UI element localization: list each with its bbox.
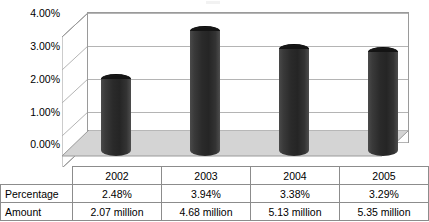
gridline-1: [88, 112, 408, 113]
table-header-2004: 2004: [251, 167, 340, 185]
bar-body-2004: [279, 49, 309, 156]
table-cell-amount-2004: 5.13 million: [251, 203, 340, 221]
gridline-3: [88, 46, 408, 47]
bar-2005: [368, 47, 398, 156]
bar-2004: [279, 44, 309, 156]
plot-back-wall: [87, 12, 409, 143]
table-cell-amount-2002: 2.07 million: [73, 203, 162, 221]
y-tick-label-1: 1.00%: [2, 107, 60, 118]
y-tick-label-3: 3.00%: [2, 41, 60, 52]
table-row: Percentage 2.48% 3.94% 3.38% 3.29%: [1, 185, 429, 203]
table-cell-amount-2003: 4.68 million: [162, 203, 251, 221]
bar-body-2005: [368, 52, 398, 156]
bar-2002: [101, 74, 131, 156]
y-axis: 4.00% 3.00% 2.00% 1.00% 0.00%: [0, 0, 60, 170]
table-cell-percentage-2002: 2.48%: [73, 185, 162, 203]
table-cell-amount-2005: 5.35 million: [340, 203, 429, 221]
y-tick-label-2: 2.00%: [2, 74, 60, 85]
table-row-label-percentage: Percentage: [1, 185, 73, 203]
chart-figure: 4.00% 3.00% 2.00% 1.00% 0.00%: [0, 0, 429, 222]
table-header-2003: 2003: [162, 167, 251, 185]
table-cell-percentage-2004: 3.38%: [251, 185, 340, 203]
table-corner-cell: [1, 167, 73, 185]
bar-2003: [190, 26, 220, 156]
table-row: Amount 2.07 million 4.68 million 5.13 mi…: [1, 203, 429, 221]
table-row-header: 2002 2003 2004 2005: [1, 167, 429, 185]
table-header-2005: 2005: [340, 167, 429, 185]
gridline-2: [88, 79, 408, 80]
y-tick-label-4: 4.00%: [2, 8, 60, 19]
data-table: 2002 2003 2004 2005 Percentage 2.48% 3.9…: [0, 166, 429, 221]
y-tick-label-0: 0.00%: [2, 139, 60, 150]
table-cell-percentage-2003: 3.94%: [162, 185, 251, 203]
table-header-2002: 2002: [73, 167, 162, 185]
table-cell-percentage-2005: 3.29%: [340, 185, 429, 203]
table-row-label-amount: Amount: [1, 203, 73, 221]
bar-chart-3d: 4.00% 3.00% 2.00% 1.00% 0.00%: [0, 0, 429, 170]
bar-body-2003: [190, 31, 220, 156]
bar-body-2002: [101, 79, 131, 156]
gridline-4: [88, 13, 408, 14]
